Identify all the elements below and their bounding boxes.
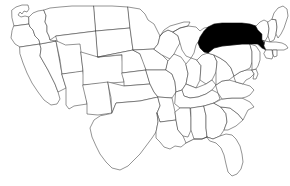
state-AL[interactable] xyxy=(191,106,207,139)
state-NM[interactable] xyxy=(83,82,112,115)
state-CO[interactable] xyxy=(81,52,124,85)
us-map-svg xyxy=(0,0,290,186)
state-KS[interactable] xyxy=(122,70,150,86)
us-map-figure: Map of the United States New York xyxy=(0,0,290,186)
state-ND[interactable] xyxy=(94,6,130,31)
state-RI[interactable] xyxy=(273,50,277,57)
